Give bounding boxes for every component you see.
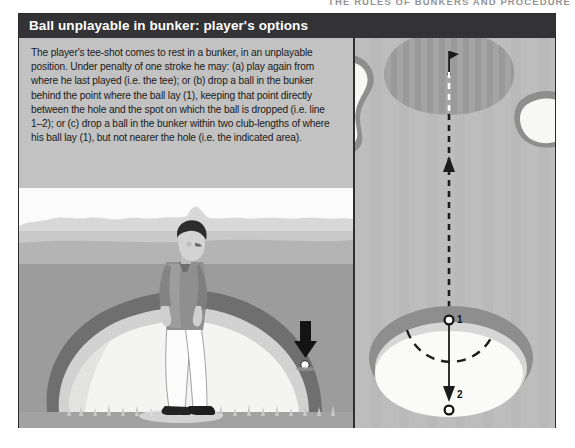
figure-body: The player's tee-shot comes to rest in a… xyxy=(19,38,555,428)
left-panel-side-view: The player's tee-shot comes to rest in a… xyxy=(19,38,353,428)
running-head: THE RULES OF BUNKERS AND PROCEDURE xyxy=(0,0,575,10)
marker-point-2-label: 2 xyxy=(457,389,463,400)
figure-caption-text: The player's tee-shot comes to rest in a… xyxy=(31,46,331,145)
figure-title: Ball unplayable in bunker: player's opti… xyxy=(29,18,308,33)
figure-panel: Ball unplayable in bunker: player's opti… xyxy=(18,13,556,428)
running-head-text: THE RULES OF BUNKERS AND PROCEDURE xyxy=(328,0,571,7)
hole-plan: 1 2 xyxy=(355,38,555,428)
figure-caption: The player's tee-shot comes to rest in a… xyxy=(31,46,331,145)
right-panel-plan-view: 1 2 xyxy=(355,38,555,428)
hole-plan-svg: 1 2 xyxy=(355,38,555,428)
marker-point-1-label: 1 xyxy=(457,314,463,325)
figure-title-bar: Ball unplayable in bunker: player's opti… xyxy=(19,14,555,38)
